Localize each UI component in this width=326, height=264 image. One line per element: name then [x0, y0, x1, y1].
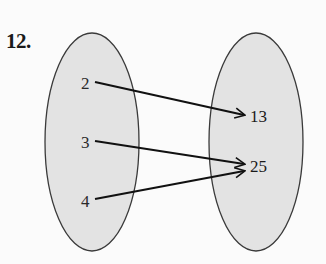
range-element-25: 25 [250, 157, 267, 176]
domain-element-2: 2 [81, 74, 90, 93]
range-set-ellipse [209, 33, 303, 251]
domain-element-4: 4 [81, 192, 90, 211]
domain-element-3: 3 [81, 133, 90, 152]
range-element-13: 13 [250, 107, 267, 126]
domain-set-ellipse [45, 33, 139, 251]
mapping-diagram: 2 3 4 13 25 [0, 0, 326, 264]
